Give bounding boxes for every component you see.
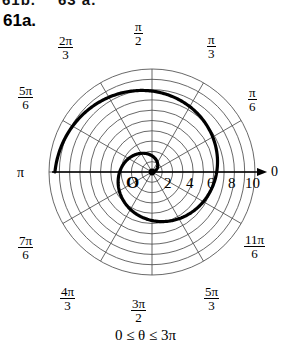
domain-caption: 0 ≤ θ ≤ 3π [0,327,291,344]
clipped-header-left: 61b. [2,0,36,5]
angle-label-2pi-over-3: 2π 3 [58,34,73,62]
origin-point [149,169,156,176]
radial-tick-8: 8 [228,175,236,192]
angle-label-5pi-over-3: 5π 3 [204,285,219,313]
angle-label-pi-over-2: π 2 [134,20,143,48]
clipped-page-header: 61b. 63 a. [0,0,291,5]
angle-label-zero: 0 [271,164,278,180]
radial-tick-2: 2 [164,175,172,192]
angle-label-5pi-over-6: 5π 6 [18,84,33,112]
angle-label-4pi-over-3: 4π 3 [60,285,75,313]
clipped-header-right: 63 a. [58,0,96,5]
radial-tick-6: 6 [207,175,215,192]
origin-label: O [126,173,139,193]
spiral-curve [55,90,218,221]
exercise-number-label: 61a. [3,11,36,31]
angle-label-3pi-over-2: 3π 2 [131,297,146,325]
radial-tick-10: 10 [245,175,260,192]
radial-tick-4: 4 [186,175,194,192]
angle-label-pi-over-6: π 6 [248,86,257,114]
angle-label-11pi-over-6: 11π 6 [244,233,265,261]
polar-spiral-figure: 61b. 63 a. 61a. 2π 3 π 2 π 3 5π [0,0,291,353]
angle-label-pi: π [17,165,24,181]
angle-label-7pi-over-6: 7π 6 [18,234,33,262]
angle-label-pi-over-3: π 3 [207,33,216,61]
